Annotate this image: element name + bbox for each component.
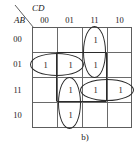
column-header-0: 00: [32, 14, 57, 26]
kmap-groupings: [32, 27, 132, 128]
column-header-1: 01: [57, 14, 82, 26]
row-header-1: 01: [5, 58, 30, 70]
row-header-2: 11: [5, 84, 30, 96]
column-header-3: 10: [107, 14, 132, 26]
figure-caption-text: b): [49, 132, 89, 142]
row-header-3: 10: [5, 109, 30, 121]
column-header-2: 11: [82, 14, 107, 26]
group-col01-row11-10: [58, 77, 81, 129]
figure-caption: b): [0, 132, 138, 142]
karnaugh-map-figure: CD AB 00 01 11 10 00 01 11 10 1 1 1 1 1 …: [0, 0, 138, 149]
axis-corner-header: CD AB: [14, 4, 33, 28]
column-variable-label: CD: [32, 3, 45, 13]
row-header-0: 00: [5, 33, 30, 45]
group-row11-col11-10: [80, 79, 134, 101]
row-variable-label: AB: [14, 15, 25, 25]
